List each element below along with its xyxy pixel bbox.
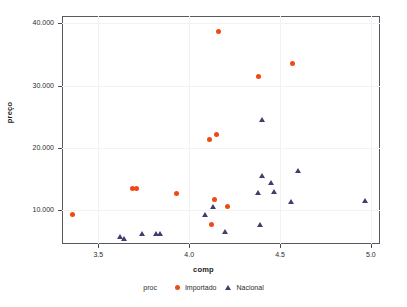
y-tick-label: 40.000	[10, 19, 54, 26]
data-point-nacional	[210, 204, 216, 209]
x-tick-label: 4.0	[169, 251, 209, 258]
x-tick-mark	[98, 244, 99, 248]
data-point-nacional	[202, 212, 208, 217]
data-point-nacional	[257, 222, 263, 227]
data-point-nacional	[222, 229, 228, 234]
x-tick-label: 4.5	[260, 251, 300, 258]
data-point-importado	[70, 212, 75, 217]
data-point-importado	[209, 222, 214, 227]
data-point-importado	[207, 137, 212, 142]
triangle-marker-icon	[225, 285, 231, 290]
legend-label-importado: Importado	[185, 284, 217, 291]
y-tick-label: 20.000	[10, 144, 54, 151]
data-point-nacional	[259, 173, 265, 178]
data-point-nacional	[255, 190, 261, 195]
legend-entry-nacional[interactable]: Nacional	[225, 284, 263, 291]
data-point-nacional	[157, 231, 163, 236]
data-point-importado	[225, 204, 230, 209]
data-point-nacional	[271, 189, 277, 194]
data-point-nacional	[139, 231, 145, 236]
data-point-importado	[256, 74, 261, 79]
data-points-layer	[62, 16, 380, 244]
legend-entry-importado[interactable]: Importado	[175, 284, 217, 291]
x-tick-label: 3.5	[78, 251, 118, 258]
y-axis-title: preço	[5, 88, 14, 138]
data-point-importado	[214, 132, 219, 137]
x-axis-title: comp	[0, 265, 407, 274]
legend-label-nacional: Nacional	[236, 284, 263, 291]
legend: proc Importado Nacional	[0, 284, 407, 291]
data-point-importado	[216, 29, 221, 34]
scatter-chart: 10.00020.00030.00040.0003.54.04.55.0 pre…	[0, 0, 407, 307]
data-point-importado	[134, 186, 139, 191]
data-point-nacional	[121, 236, 127, 241]
y-tick-label: 10.000	[10, 206, 54, 213]
y-tick-label: 30.000	[10, 82, 54, 89]
data-point-importado	[174, 191, 179, 196]
data-point-nacional	[288, 199, 294, 204]
data-point-importado	[290, 61, 295, 66]
legend-title: proc	[143, 284, 157, 291]
x-tick-mark	[371, 244, 372, 248]
data-point-nacional	[259, 117, 265, 122]
x-tick-mark	[189, 244, 190, 248]
x-tick-label: 5.0	[351, 251, 391, 258]
data-point-nacional	[295, 168, 301, 173]
x-tick-mark	[280, 244, 281, 248]
circle-marker-icon	[175, 285, 180, 290]
data-point-nacional	[268, 180, 274, 185]
data-point-importado	[212, 197, 217, 202]
data-point-nacional	[362, 198, 368, 203]
